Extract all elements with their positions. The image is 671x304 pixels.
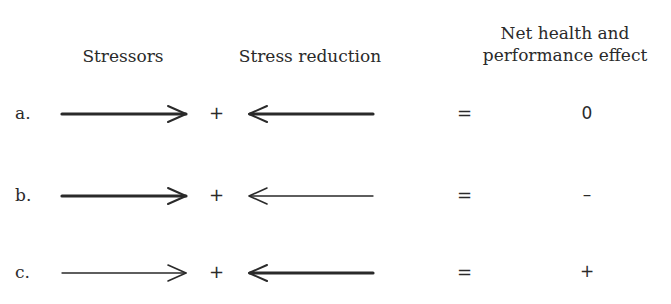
row-b-result: – [567, 184, 607, 204]
arrows-layer [0, 0, 671, 304]
row-a-result: 0 [567, 103, 607, 123]
row-a-stressor-arrow-icon [62, 106, 186, 122]
row-c-equals: = [457, 261, 472, 282]
row-c-label: c. [15, 262, 30, 282]
row-a-equals: = [457, 102, 472, 123]
row-c-plus: + [209, 261, 224, 282]
row-b-reduction-arrow-icon [249, 188, 373, 204]
row-c-result: + [567, 261, 607, 281]
row-a-plus: + [209, 102, 224, 123]
row-b-stressor-arrow-icon [62, 188, 186, 204]
row-b-plus: + [209, 184, 224, 205]
row-a-reduction-arrow-icon [249, 106, 373, 122]
row-c-stressor-arrow-icon [62, 265, 186, 281]
row-b-label: b. [15, 185, 31, 205]
row-c-reduction-arrow-icon [249, 265, 373, 281]
row-b-equals: = [457, 184, 472, 205]
row-a-label: a. [15, 103, 31, 123]
